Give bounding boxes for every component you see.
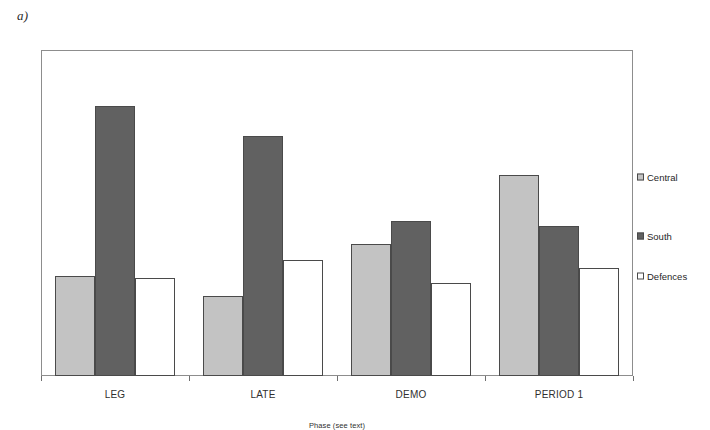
legend-label: Defences: [647, 271, 687, 282]
x-axis-tick-label: LEG: [105, 389, 126, 400]
x-axis: Phase (see text) LEGLATEDEMOPERIOD 1: [41, 376, 633, 427]
legend: CentralSouthDefences: [637, 50, 710, 376]
x-axis-tick-mark: [633, 376, 634, 381]
legend-label: Central: [647, 172, 678, 183]
bar-south-late: [243, 136, 283, 376]
x-axis-tick-mark: [485, 376, 486, 381]
x-axis-tick-label: LATE: [250, 389, 275, 400]
bar-south-leg: [95, 106, 135, 376]
bar-central-demo: [351, 244, 391, 376]
bar-south-period-1: [539, 226, 579, 376]
bar-central-period-1: [499, 175, 539, 376]
x-axis-tick-label: PERIOD 1: [535, 389, 583, 400]
y-axis: 0510152025: [0, 0, 41, 427]
x-axis-tick-mark: [189, 376, 190, 381]
legend-swatch-icon: [637, 273, 644, 280]
legend-swatch-icon: [637, 174, 644, 181]
bar-defences-demo: [431, 283, 471, 376]
x-axis-tick-mark: [41, 376, 42, 381]
legend-label: South: [647, 231, 672, 242]
legend-swatch-icon: [637, 233, 644, 240]
bar-central-leg: [55, 276, 95, 376]
legend-entry-defences[interactable]: Defences: [637, 271, 687, 282]
bar-defences-late: [283, 260, 323, 376]
bar-defences-leg: [135, 278, 175, 376]
x-axis-tick-mark: [337, 376, 338, 381]
bars-layer: [41, 50, 633, 376]
bar-central-late: [203, 296, 243, 376]
bar-south-demo: [391, 221, 431, 376]
x-axis-tick-label: DEMO: [396, 389, 427, 400]
x-axis-title: Phase (see text): [41, 421, 633, 430]
legend-entry-central[interactable]: Central: [637, 172, 678, 183]
bar-defences-period-1: [579, 268, 619, 376]
legend-entry-south[interactable]: South: [637, 231, 672, 242]
